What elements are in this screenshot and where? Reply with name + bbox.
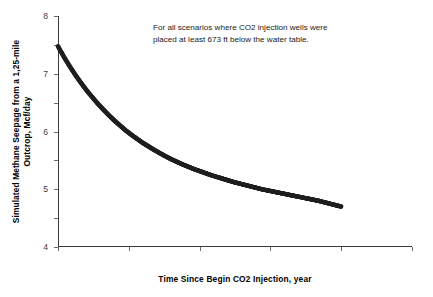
chart-annotation: For all scenarios where CO2 injection we… xyxy=(153,22,328,46)
x-axis-tick: 250 xyxy=(412,247,413,251)
x-axis-tick: 200 xyxy=(341,247,342,251)
plot-area: 012345678 050100150200250 For all scenar… xyxy=(58,16,412,247)
y-axis-tick-label: 4 xyxy=(43,242,48,252)
y-axis-title: Simulated Methane Seepage from a 1,25-mi… xyxy=(0,0,44,262)
x-axis-tick: 150 xyxy=(270,247,271,251)
x-axis-tick: 100 xyxy=(200,247,201,251)
y-axis-tick-label: 8 xyxy=(43,11,48,21)
annotation-line-1: For all scenarios where CO2 injection we… xyxy=(153,22,328,34)
x-axis-tick: 50 xyxy=(129,247,130,251)
y-axis-tick-label: 7 xyxy=(43,69,48,79)
y-axis-tick-label: 6 xyxy=(43,127,48,137)
x-axis-title: Time Since Begin CO2 Injection, year xyxy=(58,274,412,284)
annotation-line-2: placed at least 673 ft below the water t… xyxy=(153,34,328,46)
data-point xyxy=(339,204,343,208)
series-markers xyxy=(56,44,344,209)
y-axis-tick-label: 5 xyxy=(43,184,48,194)
y-axis-title-line-2: Outcrop, Mcf/day xyxy=(22,39,33,222)
x-axis-tick: 0 xyxy=(58,247,59,251)
y-axis-title-line-1: Simulated Methane Seepage from a 1,25-mi… xyxy=(12,39,23,222)
chart-figure: Simulated Methane Seepage from a 1,25-mi… xyxy=(0,0,433,297)
data-series-layer xyxy=(58,16,412,247)
